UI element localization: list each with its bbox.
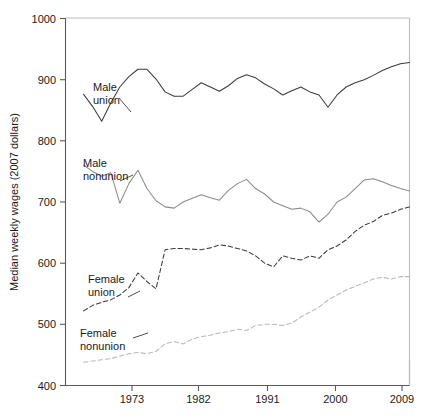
label-leader-lines: [119, 98, 148, 338]
series-label-male-union: Male union: [93, 81, 120, 106]
x-tick-label-1982: 1982: [186, 393, 210, 405]
series-line-male-nonunion: [84, 165, 410, 222]
y-tick-label-500: 500: [38, 318, 56, 330]
series-label-female-union-line1: Female: [88, 273, 125, 285]
x-tick-labels: 1973 1982 1991 2000 2009: [120, 393, 414, 405]
series-line-female-union: [84, 207, 410, 311]
series-label-female-union-line2: union: [88, 286, 115, 298]
x-tick-label-1991: 1991: [255, 393, 279, 405]
axis-spines: [66, 18, 410, 386]
series-layer: [84, 63, 410, 363]
x-tick-label-2000: 2000: [323, 393, 347, 405]
series-label-male-union-line1: Male: [93, 81, 117, 93]
series-label-male-union-line2: union: [93, 94, 120, 106]
x-tick-label-2009: 2009: [390, 393, 414, 405]
x-tick-label-1973: 1973: [120, 393, 144, 405]
y-tick-label-400: 400: [38, 380, 56, 392]
y-tick-marks: [60, 19, 66, 386]
wages-line-chart: 400 500 600 700 800 900 1000 1973 1982 1…: [0, 0, 431, 420]
y-tick-label-600: 600: [38, 257, 56, 269]
series-line-male-union: [84, 63, 410, 122]
series-label-female-union: Female union: [88, 273, 125, 298]
y-tick-label-700: 700: [38, 196, 56, 208]
x-tick-marks: [132, 386, 402, 392]
y-tick-label-1000: 1000: [32, 13, 56, 25]
y-tick-label-800: 800: [38, 135, 56, 147]
series-label-female-nonunion-line2: nonunion: [80, 340, 125, 352]
series-label-male-nonunion: Male nonunion: [83, 157, 128, 182]
y-tick-label-900: 900: [38, 74, 56, 86]
chart-figure: 400 500 600 700 800 900 1000 1973 1982 1…: [0, 0, 431, 420]
series-label-female-nonunion: Female nonunion: [80, 327, 125, 352]
y-tick-labels: 400 500 600 700 800 900 1000: [32, 13, 56, 392]
series-label-female-nonunion-line1: Female: [80, 327, 117, 339]
series-label-male-nonunion-line1: Male: [83, 157, 107, 169]
series-line-female-nonunion: [84, 277, 410, 363]
y-axis-title: Median weekly wages (2007 dollars): [8, 113, 20, 291]
series-label-male-nonunion-line2: nonunion: [83, 170, 128, 182]
